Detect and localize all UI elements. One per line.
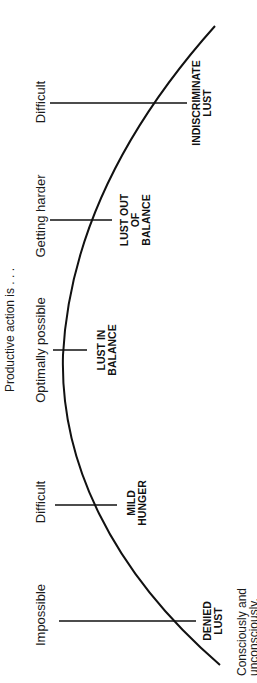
state-label-line: BALANCE <box>106 324 118 375</box>
state-label-line: LUST <box>212 607 224 635</box>
state-label-lust-out-of-balance: LUST OUT OF BALANCE <box>118 193 152 246</box>
state-label-denied-lust: DENIED LUST <box>201 601 224 641</box>
action-level-label: Difficult <box>33 480 48 523</box>
footnote: Consciously and unconsciously, <box>235 588 257 676</box>
footnote-line: unconsciously, <box>247 598 257 676</box>
state-label-line: LUST <box>201 89 213 117</box>
lust-balance-diagram: Productive action is . . . Difficult Get… <box>0 0 257 683</box>
state-label-mild-hunger: MILD HUNGER <box>125 480 148 526</box>
state-label-line: BALANCE <box>140 194 152 245</box>
action-level-label: Getting harder <box>33 174 48 258</box>
state-label-lust-in-balance: LUST IN BALANCE <box>95 324 118 375</box>
state-label-line: HUNGER <box>136 480 148 526</box>
state-label-indiscriminate-lust: INDISCRIMINATE LUST <box>190 60 213 146</box>
action-level-label: Optimally possible <box>33 297 48 403</box>
diagram-title: Productive action is . . . <box>3 268 17 392</box>
action-level-label: Impossible <box>33 584 48 646</box>
action-level-label: Difficult <box>33 80 48 123</box>
